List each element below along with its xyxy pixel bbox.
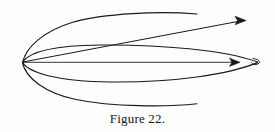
- lens-upper-boundary-stroke: [23, 45, 258, 62]
- upper-arrowhead-icon: [235, 16, 246, 25]
- outer-upper-arc-stroke: [23, 13, 198, 63]
- outer-lower-arc-stroke: [23, 63, 198, 106]
- upper-arrow-shaft: [23, 21, 243, 63]
- figure-container: Figure 22.: [0, 0, 275, 132]
- lens-lower-boundary-stroke: [23, 63, 258, 82]
- figure-caption: Figure 22.: [0, 110, 275, 127]
